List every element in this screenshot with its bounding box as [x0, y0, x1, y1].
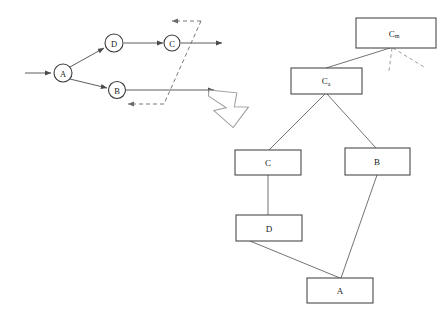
- graph-node-d[interactable]: D: [105, 34, 123, 52]
- tree-box-c-label: C: [265, 158, 271, 168]
- dependency-tree: Cm Ca C B D A: [235, 18, 436, 303]
- graph-node-a[interactable]: A: [54, 64, 72, 82]
- node-c-label: C: [169, 39, 175, 49]
- tree-box-ca[interactable]: Ca: [291, 68, 362, 94]
- edge-a-to-d: [70, 48, 104, 67]
- tree-box-cm-subscript: m: [395, 33, 400, 39]
- tree-box-d-label: D: [266, 224, 273, 234]
- graph-node-c[interactable]: C: [164, 35, 180, 51]
- link-cm-dashed-2: [393, 48, 424, 67]
- transform-arrow-shape: [205, 90, 249, 129]
- tree-box-d[interactable]: D: [236, 215, 302, 241]
- edge-a-to-b: [70, 79, 107, 88]
- edge-feedback-slant: [164, 21, 201, 104]
- node-d-label: D: [111, 39, 117, 49]
- link-cm-dashed-1: [389, 48, 392, 71]
- tree-box-ca-subscript: a: [328, 81, 331, 87]
- tree-box-b-label: B: [374, 157, 380, 167]
- diagram-canvas: A D C B Cm: [0, 0, 443, 324]
- tree-box-c[interactable]: C: [235, 150, 301, 175]
- graph-node-b[interactable]: B: [109, 82, 126, 99]
- tree-box-b[interactable]: B: [345, 148, 410, 175]
- link-d-to-a: [250, 241, 340, 278]
- tree-box-cm[interactable]: Cm: [356, 18, 436, 48]
- node-b-label: B: [114, 86, 120, 96]
- node-a-label: A: [60, 69, 67, 79]
- tree-box-a[interactable]: A: [307, 278, 373, 303]
- link-b-to-a: [341, 175, 377, 278]
- link-cm-to-ca: [326, 48, 390, 68]
- tree-box-a-label: A: [337, 286, 344, 296]
- link-ca-to-b: [327, 94, 376, 148]
- execution-graph: A D C B: [25, 21, 222, 104]
- transform-arrow: [205, 90, 249, 129]
- link-ca-to-c: [269, 94, 325, 150]
